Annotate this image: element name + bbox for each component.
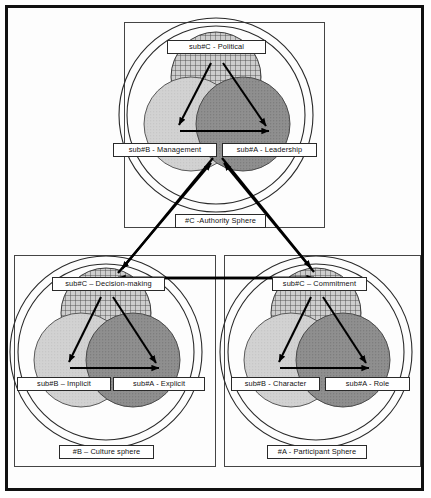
label-authority-sphere[interactable]: #C -Authority Sphere [175, 214, 266, 228]
label-sub-a-explicit[interactable]: sub#A - Explicit [113, 377, 205, 391]
label-sub-b-character[interactable]: sub#B - Character [231, 377, 320, 391]
label-participant-sphere[interactable]: #A - Participant Sphere [267, 445, 367, 459]
label-culture-sphere[interactable]: #B – Culture sphere [59, 445, 154, 459]
label-sub-c-decision-making[interactable]: sub#C – Decision-making [52, 277, 165, 291]
label-sub-b-management[interactable]: sub#B - Management [113, 143, 217, 157]
diagram-frame [5, 5, 424, 491]
label-sub-c-political[interactable]: sub#C - Political [167, 40, 266, 54]
label-sub-b-implicit[interactable]: sub#B – Implicit [17, 377, 111, 391]
label-sub-a-role[interactable]: sub#A - Role [325, 377, 410, 391]
label-sub-c-commitment[interactable]: sub#C – Commitment [272, 277, 367, 291]
label-sub-a-leadership[interactable]: sub#A - Leadership [222, 143, 317, 157]
